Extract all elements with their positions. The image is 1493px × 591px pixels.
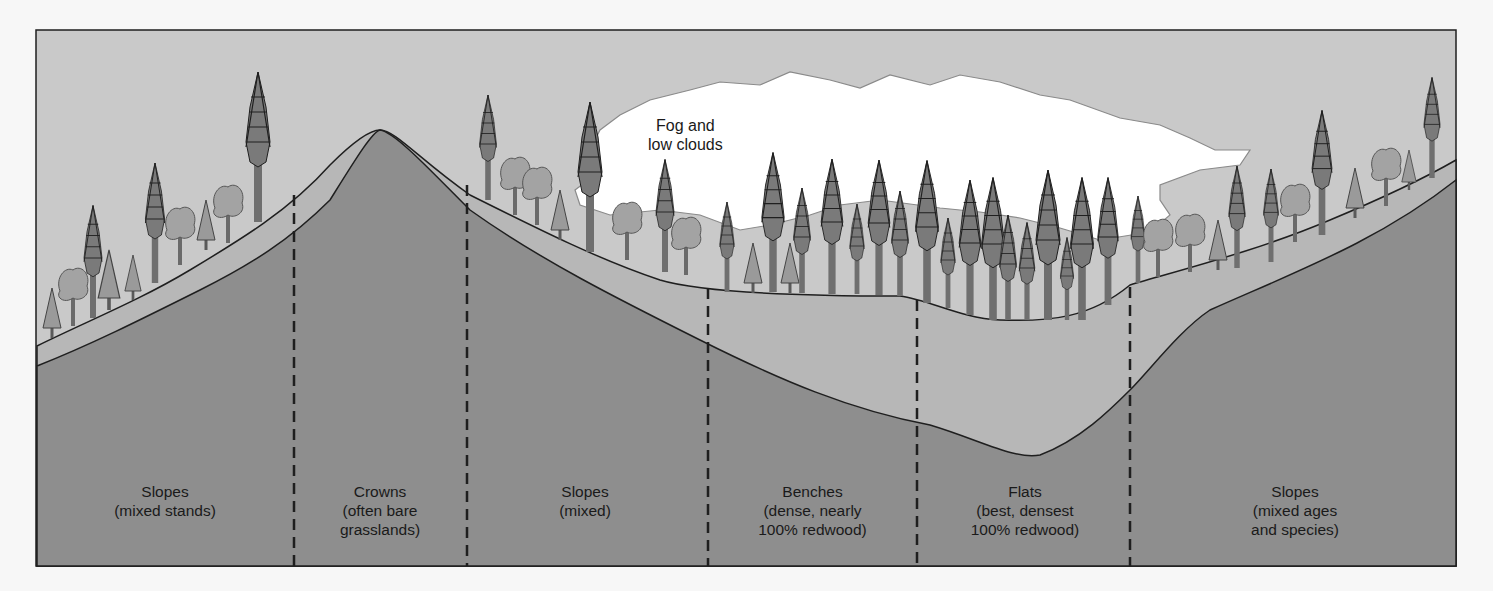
fog-label-line-2: low clouds (648, 135, 723, 154)
fog-label-line-1: Fog and (648, 116, 723, 135)
zone-title: Benches (730, 482, 895, 501)
zone-label-slopes-middle: Slopes (mixed) (520, 482, 650, 520)
zone-desc: (best, densest (935, 501, 1115, 520)
redwood-habitat-cross-section: Fog and low clouds Slopes (mixed stands)… (0, 0, 1493, 591)
zone-desc: 100% redwood) (730, 520, 895, 539)
zone-desc: (often bare (305, 501, 455, 520)
zone-label-slopes-left: Slopes (mixed stands) (100, 482, 230, 520)
zone-label-crowns: Crowns (often bare grasslands) (305, 482, 455, 539)
zone-label-benches: Benches (dense, nearly 100% redwood) (730, 482, 895, 539)
zone-desc: (mixed stands) (100, 501, 230, 520)
zone-desc: grasslands) (305, 520, 455, 539)
zone-title: Slopes (1220, 482, 1370, 501)
zone-title: Flats (935, 482, 1115, 501)
zone-desc: (dense, nearly (730, 501, 895, 520)
zone-title: Slopes (100, 482, 230, 501)
fog-label: Fog and low clouds (648, 116, 723, 154)
zone-desc: (mixed ages (1220, 501, 1370, 520)
zone-desc: 100% redwood) (935, 520, 1115, 539)
zone-desc: (mixed) (520, 501, 650, 520)
zone-desc: and species) (1220, 520, 1370, 539)
zone-title: Crowns (305, 482, 455, 501)
zone-title: Slopes (520, 482, 650, 501)
zone-label-slopes-right: Slopes (mixed ages and species) (1220, 482, 1370, 539)
zone-label-flats: Flats (best, densest 100% redwood) (935, 482, 1115, 539)
